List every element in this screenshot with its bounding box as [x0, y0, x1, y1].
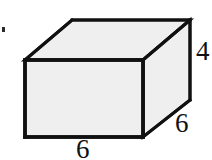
prism-figure: 4 6 6 — [0, 0, 212, 160]
dimension-label-depth: 6 — [175, 110, 189, 137]
prism-front-face — [25, 60, 143, 137]
scan-artifact-speck — [2, 27, 5, 32]
dimension-label-width: 6 — [76, 136, 90, 160]
dimension-label-height: 4 — [196, 38, 210, 65]
